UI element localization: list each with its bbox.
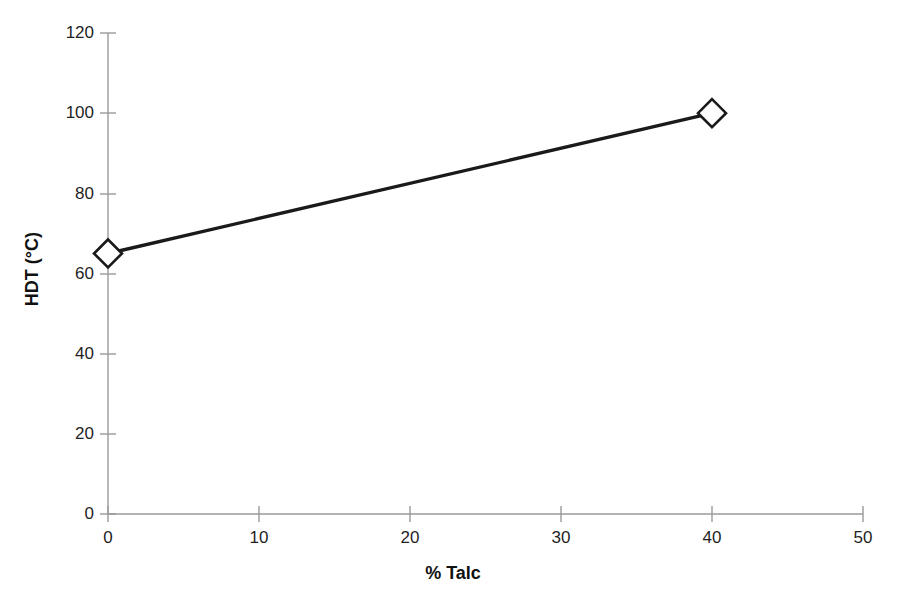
x-tick-label-50: 50 — [854, 528, 873, 548]
x-tick-label-20: 20 — [401, 528, 420, 548]
x-axis-title: % Talc — [0, 563, 906, 584]
x-tick-label-10: 10 — [250, 528, 269, 548]
y-tick-label-60: 60 — [38, 264, 94, 284]
data-point-marker — [94, 239, 122, 267]
plot-canvas — [0, 0, 906, 606]
data-point-marker — [698, 99, 726, 127]
x-tick-label-0: 0 — [103, 528, 112, 548]
y-tick-label-40: 40 — [38, 344, 94, 364]
x-tick-label-30: 30 — [552, 528, 571, 548]
y-axis-title: HDT (°C) — [22, 232, 43, 306]
series-line-hdt — [108, 113, 712, 253]
y-tick-label-80: 80 — [38, 184, 94, 204]
y-tick-label-20: 20 — [38, 424, 94, 444]
y-tick-label-120: 120 — [38, 23, 94, 43]
chart-figure: 120 100 80 60 40 20 0 0 10 20 30 40 50 %… — [0, 0, 906, 606]
y-tick-label-0: 0 — [38, 504, 94, 524]
x-tick-label-40: 40 — [703, 528, 722, 548]
y-tick-label-100: 100 — [38, 103, 94, 123]
